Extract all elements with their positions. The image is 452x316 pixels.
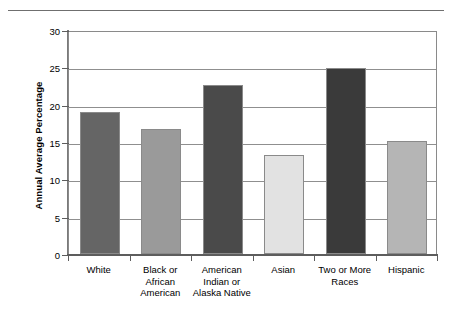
x-axis-category-label: Black or African American [130, 264, 192, 299]
x-axis-tick-mark [130, 256, 131, 261]
gridline [69, 69, 436, 70]
x-axis-tick-mark [253, 256, 254, 261]
bar [141, 129, 181, 254]
x-axis-category-label: Two or More Races [314, 264, 376, 287]
y-axis-tick-label: 25 [34, 63, 60, 74]
y-axis-tick-label: 0 [34, 250, 60, 261]
y-axis-tick-label: 5 [34, 212, 60, 223]
bar [264, 155, 304, 254]
x-axis-tick-mark [314, 256, 315, 261]
x-axis-category-label: American Indian or Alaska Native [191, 264, 253, 299]
gridline [69, 144, 436, 145]
bar [203, 85, 243, 254]
y-axis-tick-label: 10 [34, 175, 60, 186]
bar [326, 68, 366, 254]
y-axis-tick-mark [62, 180, 69, 181]
y-axis-tick-mark [62, 143, 69, 144]
y-axis-tick-label: 15 [34, 138, 60, 149]
y-axis-tick-mark [62, 31, 69, 32]
bar [387, 141, 427, 254]
gridline [69, 219, 436, 220]
x-axis-category-label: Asian [253, 264, 315, 276]
x-axis-tick-mark [376, 256, 377, 261]
y-axis-tick-mark [62, 106, 69, 107]
x-axis-category-label: Hispanic [376, 264, 438, 276]
x-axis-tick-mark [437, 256, 438, 261]
y-axis-tick-labels: 051015202530 [30, 31, 60, 255]
x-axis-tick-mark [68, 256, 69, 261]
y-axis-tick-mark [62, 255, 69, 256]
plot-area [68, 31, 437, 255]
y-axis-tick-mark [62, 68, 69, 69]
y-axis-tick-label: 30 [34, 26, 60, 37]
bar [80, 112, 120, 254]
x-axis-category-label: White [68, 264, 130, 276]
gridline [69, 181, 436, 182]
x-axis-tick-mark [191, 256, 192, 261]
y-axis-tick-mark [62, 218, 69, 219]
gridline [69, 107, 436, 108]
y-axis-tick-label: 20 [34, 100, 60, 111]
bar-chart: Annual Average Percentage 051015202530 W… [0, 0, 452, 316]
